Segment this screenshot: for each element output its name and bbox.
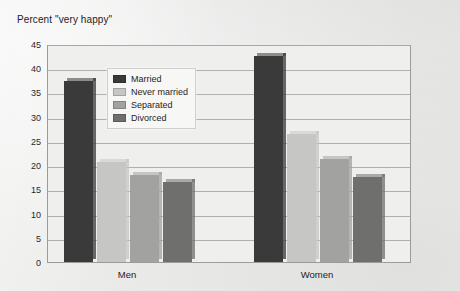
bar-side-edge [126, 159, 129, 259]
legend-label: Married [131, 74, 162, 84]
legend-item-married: Married [113, 72, 188, 85]
x-axis-label-men: Men [118, 269, 136, 280]
bar-women-never-married [287, 134, 316, 262]
chart-figure: Percent "very happy" 051015202530354045 … [0, 0, 460, 291]
bar-face [320, 159, 349, 262]
legend-label: Divorced [131, 113, 167, 123]
bar-face [97, 162, 126, 262]
bar-women-divorced [353, 177, 382, 262]
plot-area [47, 45, 411, 263]
bar-men-married [64, 81, 93, 262]
chart-title: Percent "very happy" [17, 14, 112, 25]
legend-label: Never married [131, 87, 188, 97]
bar-side-edge [349, 156, 352, 259]
bar-side-edge [192, 179, 195, 259]
y-tick-label-10: 10 [1, 210, 41, 220]
gridline-40 [48, 70, 410, 71]
bar-men-divorced [163, 182, 192, 262]
legend-item-separated: Separated [113, 98, 188, 111]
bar-face [254, 56, 283, 262]
bar-men-never-married [97, 162, 126, 262]
bar-side-edge [159, 172, 162, 259]
y-tick-label-25: 25 [1, 137, 41, 147]
y-tick-label-0: 0 [1, 258, 41, 268]
bar-face [130, 175, 159, 262]
bar-women-married [254, 56, 283, 262]
bar-side-edge [283, 53, 286, 259]
legend-item-divorced: Divorced [113, 111, 188, 124]
gridline-30 [48, 119, 410, 120]
bar-women-separated [320, 159, 349, 262]
y-tick-label-30: 30 [1, 113, 41, 123]
bar-face [163, 182, 192, 262]
y-tick-label-45: 45 [1, 40, 41, 50]
y-tick-label-20: 20 [1, 161, 41, 171]
legend-item-never-married: Never married [113, 85, 188, 98]
legend-swatch-icon [113, 88, 126, 96]
gridline-35 [48, 94, 410, 95]
legend-swatch-icon [113, 101, 126, 109]
bar-side-edge [382, 174, 385, 259]
y-tick-label-15: 15 [1, 185, 41, 195]
bar-side-edge [93, 78, 96, 259]
legend-swatch-icon [113, 75, 126, 83]
y-axis-tick-labels: 051015202530354045 [0, 45, 41, 263]
gridline-25 [48, 143, 410, 144]
chart-legend: MarriedNever marriedSeparatedDivorced [107, 68, 196, 129]
bar-face [353, 177, 382, 262]
legend-label: Separated [131, 100, 173, 110]
x-axis-label-women: Women [301, 269, 334, 280]
bar-face [64, 81, 93, 262]
y-tick-label-35: 35 [1, 88, 41, 98]
bar-side-edge [316, 131, 319, 259]
legend-swatch-icon [113, 114, 126, 122]
bar-men-separated [130, 175, 159, 262]
bar-face [287, 134, 316, 262]
y-tick-label-40: 40 [1, 64, 41, 74]
y-tick-label-5: 5 [1, 234, 41, 244]
